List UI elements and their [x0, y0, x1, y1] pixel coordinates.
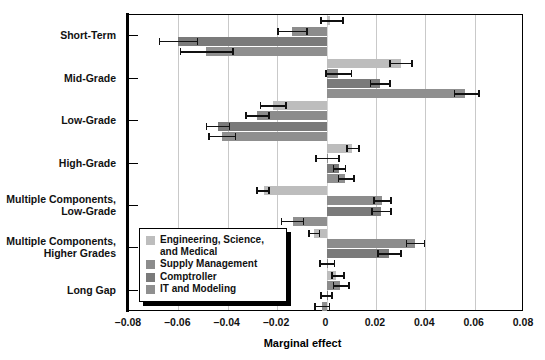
- error-bar-cap-low: [315, 155, 317, 162]
- error-bar-line: [377, 253, 402, 255]
- error-bar-line: [406, 243, 426, 245]
- error-bar: [320, 17, 343, 24]
- error-bar-cap-high: [478, 90, 480, 97]
- bar: [327, 239, 416, 248]
- y-axis-tick: [129, 35, 138, 36]
- gridline: [425, 15, 426, 310]
- error-bar-line: [277, 31, 308, 33]
- error-bar: [319, 260, 335, 267]
- error-bar: [333, 165, 347, 172]
- bar: [218, 122, 327, 131]
- x-axis-tick-label: –0.02: [263, 316, 289, 328]
- legend-swatch: [146, 273, 155, 282]
- x-axis-tick-label: –0.08: [115, 316, 141, 328]
- error-bar-cap-high: [197, 38, 199, 45]
- error-bar: [338, 175, 355, 182]
- error-bar-cap-low: [159, 38, 161, 45]
- error-bar: [159, 38, 199, 45]
- error-bar-line: [281, 221, 304, 223]
- marginal-effect-bar-chart: Short-TermMid-GradeLow-GradeHigh-GradeMu…: [0, 0, 545, 360]
- error-bar-cap-high: [334, 260, 336, 267]
- error-bar-cap-high: [319, 230, 321, 237]
- error-bar: [406, 240, 426, 247]
- error-bar-cap-high: [358, 145, 360, 152]
- legend-swatch: [146, 236, 155, 245]
- error-bar: [333, 282, 350, 289]
- error-bar-line: [373, 200, 392, 202]
- error-bar-cap-low: [320, 292, 322, 299]
- error-bar-line: [206, 126, 231, 128]
- error-bar-cap-low: [245, 112, 247, 119]
- bar: [264, 186, 327, 195]
- y-axis-category-label: Long Gap: [67, 284, 116, 296]
- error-bar-cap-high: [329, 303, 331, 310]
- error-bar: [371, 208, 392, 215]
- error-bar-cap-high: [342, 17, 344, 24]
- error-bar: [208, 133, 236, 140]
- x-axis-tick-label: 0: [323, 316, 329, 328]
- error-bar-line: [245, 115, 270, 117]
- y-axis-category-label: Low-Grade: [61, 114, 116, 126]
- error-bar: [260, 102, 287, 109]
- error-bar-cap-high: [268, 112, 270, 119]
- error-bar: [320, 292, 332, 299]
- y-axis-tick: [129, 120, 138, 121]
- error-bar-cap-low: [333, 165, 335, 172]
- y-axis-tick: [129, 205, 138, 206]
- error-bar: [389, 60, 412, 67]
- error-bar-cap-low: [370, 80, 372, 87]
- error-bar: [325, 70, 352, 77]
- error-bar-cap-low: [260, 102, 262, 109]
- x-axis-title-text: Marginal effect: [264, 337, 342, 349]
- error-bar: [315, 155, 340, 162]
- legend-label: Supply Management: [160, 258, 257, 270]
- error-bar-cap-high: [303, 218, 305, 225]
- error-bar-cap-high: [400, 250, 402, 257]
- error-bar-cap-low: [180, 48, 182, 55]
- error-bar-cap-high: [389, 80, 391, 87]
- error-bar-line: [389, 63, 412, 65]
- legend-item: Supply Management: [146, 258, 280, 270]
- x-axis-tick-label: 0.08: [513, 316, 533, 328]
- x-axis-tick-label: –0.04: [214, 316, 240, 328]
- bar: [222, 132, 327, 141]
- x-axis-tick-label: 0.02: [365, 316, 385, 328]
- error-bar-cap-high: [353, 175, 355, 182]
- x-axis-tick-label: –0.06: [164, 316, 190, 328]
- error-bar: [373, 197, 392, 204]
- error-bar-cap-high: [232, 48, 234, 55]
- error-bar-line: [208, 136, 236, 138]
- error-bar: [277, 28, 308, 35]
- y-axis-tick: [129, 78, 138, 79]
- error-bar: [377, 250, 402, 257]
- legend-label: IT and Modeling: [160, 283, 236, 295]
- gridline: [475, 15, 476, 310]
- error-bar-cap-high: [229, 123, 231, 130]
- y-axis-tick: [129, 290, 138, 291]
- legend-label: Comptroller: [160, 271, 217, 283]
- error-bar: [370, 80, 391, 87]
- error-bar-cap-high: [345, 165, 347, 172]
- y-axis-category-label: Short-Term: [60, 29, 116, 41]
- error-bar-cap-low: [333, 282, 335, 289]
- error-bar-cap-low: [331, 272, 333, 279]
- error-bar-cap-low: [371, 208, 373, 215]
- error-bar-cap-low: [319, 260, 321, 267]
- error-bar-cap-low: [277, 28, 279, 35]
- error-bar-line: [320, 20, 343, 22]
- error-bar: [308, 230, 320, 237]
- error-bar-cap-high: [235, 133, 237, 140]
- error-bar-cap-high: [331, 292, 333, 299]
- bar: [178, 37, 326, 46]
- error-bar: [245, 112, 270, 119]
- error-bar-cap-high: [351, 70, 353, 77]
- legend-swatch: [146, 260, 155, 269]
- error-bar-line: [454, 93, 480, 95]
- bar: [327, 89, 465, 98]
- error-bar: [346, 145, 360, 152]
- x-axis-tick-label: 0.04: [414, 316, 434, 328]
- error-bar-line: [371, 211, 392, 213]
- error-bar-cap-low: [338, 175, 340, 182]
- legend: Engineering, Science, and MedicalSupply …: [139, 228, 287, 302]
- error-bar-cap-low: [256, 187, 258, 194]
